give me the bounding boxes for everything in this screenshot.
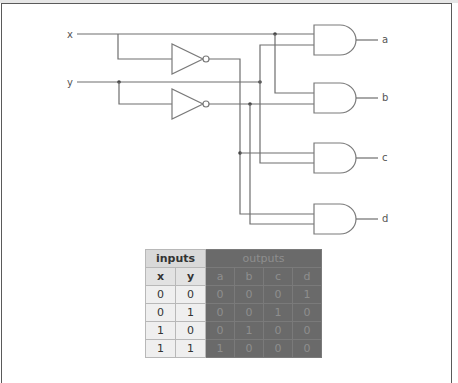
col-c: c bbox=[264, 268, 293, 286]
group-header-row: inputs outputs bbox=[146, 250, 322, 268]
output-label-c: c bbox=[382, 152, 388, 163]
cell: 1 bbox=[264, 304, 293, 322]
wire-x-to-and-b bbox=[275, 34, 314, 93]
cell: 0 bbox=[206, 304, 235, 322]
wire-x-to-not bbox=[118, 34, 172, 59]
cell: 1 bbox=[206, 340, 235, 358]
inputs-header: inputs bbox=[146, 250, 206, 268]
cell: 0 bbox=[176, 286, 206, 304]
cell: 0 bbox=[235, 304, 264, 322]
and-gate-c bbox=[314, 143, 356, 173]
not-gate-x bbox=[172, 44, 203, 74]
not-gate-y bbox=[172, 89, 203, 119]
table-row: 1 1 1 0 0 0 bbox=[146, 340, 322, 358]
table-row: 0 1 0 0 1 0 bbox=[146, 304, 322, 322]
wire-y-to-and-a bbox=[260, 45, 314, 82]
cell: 0 bbox=[146, 304, 176, 322]
cell: 0 bbox=[264, 286, 293, 304]
output-label-d: d bbox=[382, 213, 388, 224]
cell: 1 bbox=[176, 340, 206, 358]
and-gate-b bbox=[314, 83, 356, 113]
input-label-y: y bbox=[67, 77, 73, 88]
output-label-b: b bbox=[382, 92, 388, 103]
cell: 0 bbox=[206, 286, 235, 304]
outputs-header: outputs bbox=[206, 250, 322, 268]
wire-y-to-not bbox=[119, 82, 172, 104]
not-bubble-y bbox=[203, 101, 209, 107]
cell: 0 bbox=[293, 304, 322, 322]
col-b: b bbox=[235, 268, 264, 286]
cell: 1 bbox=[293, 286, 322, 304]
cell: 1 bbox=[176, 304, 206, 322]
cell: 0 bbox=[293, 340, 322, 358]
cell: 0 bbox=[235, 286, 264, 304]
and-gate-a bbox=[314, 25, 356, 55]
cell: 0 bbox=[206, 322, 235, 340]
input-label-x: x bbox=[67, 29, 73, 40]
table-row: 0 0 0 0 0 1 bbox=[146, 286, 322, 304]
cell: 1 bbox=[146, 340, 176, 358]
column-header-row: x y a b c d bbox=[146, 268, 322, 286]
col-y: y bbox=[176, 268, 206, 286]
wire-y-to-and-c bbox=[260, 82, 314, 163]
cell: 0 bbox=[176, 322, 206, 340]
cell: 0 bbox=[264, 340, 293, 358]
not-bubble-x bbox=[203, 56, 209, 62]
truth-table: inputs outputs x y a b c d 0 0 0 0 0 1 0… bbox=[145, 249, 322, 358]
table-row: 1 0 0 1 0 0 bbox=[146, 322, 322, 340]
cell: 0 bbox=[146, 286, 176, 304]
col-a: a bbox=[206, 268, 235, 286]
cell: 0 bbox=[235, 340, 264, 358]
col-x: x bbox=[146, 268, 176, 286]
output-label-a: a bbox=[382, 34, 388, 45]
logic-circuit: x y a b c d bbox=[0, 0, 458, 245]
cell: 0 bbox=[293, 322, 322, 340]
cell: 1 bbox=[235, 322, 264, 340]
and-gate-d bbox=[314, 204, 356, 234]
col-d: d bbox=[293, 268, 322, 286]
cell: 1 bbox=[146, 322, 176, 340]
cell: 0 bbox=[264, 322, 293, 340]
